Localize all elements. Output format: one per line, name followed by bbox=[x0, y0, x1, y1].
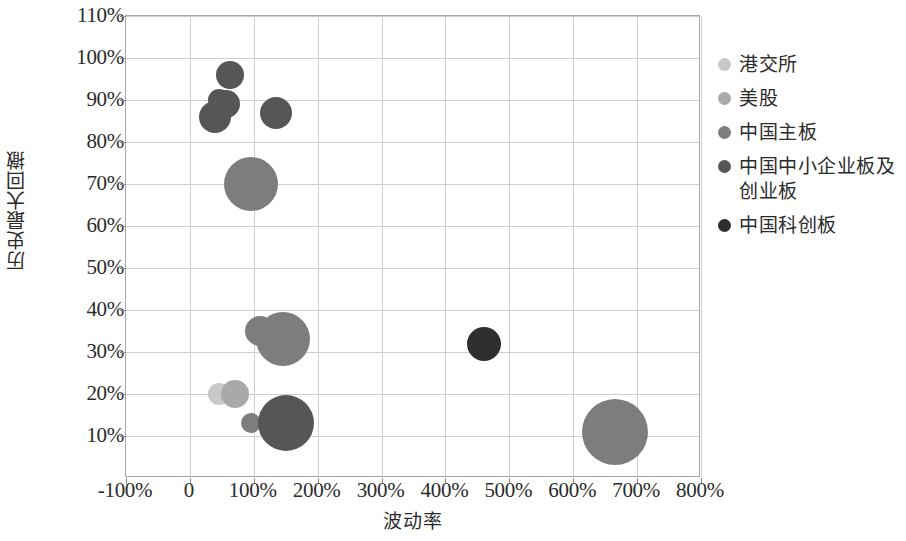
gridline-horizontal bbox=[126, 58, 699, 59]
y-tick-mark bbox=[120, 436, 126, 437]
y-tick-label: 40% bbox=[86, 299, 124, 320]
gridline-vertical bbox=[318, 16, 319, 476]
gridline-vertical bbox=[382, 16, 383, 476]
gridline-horizontal bbox=[126, 226, 699, 227]
gridline-vertical bbox=[701, 16, 702, 476]
bubble-point bbox=[216, 61, 244, 89]
gridline-horizontal bbox=[126, 16, 699, 17]
legend-marker-icon bbox=[718, 126, 731, 139]
bubble-point bbox=[260, 97, 292, 129]
gridline-vertical bbox=[509, 16, 510, 476]
bubble-point bbox=[467, 327, 501, 361]
y-tick-label: 50% bbox=[86, 257, 124, 278]
y-tick-mark bbox=[120, 268, 126, 269]
y-tick-mark bbox=[120, 184, 126, 185]
gridline-horizontal bbox=[126, 142, 699, 143]
gridline-horizontal bbox=[126, 352, 699, 353]
y-tick-label: 110% bbox=[77, 5, 124, 26]
bubble-point bbox=[221, 380, 249, 408]
legend-item-label: 美股 bbox=[739, 86, 778, 111]
y-axis-title: 历史最大回撤 bbox=[6, 150, 38, 270]
y-tick-label: 100% bbox=[76, 47, 124, 68]
y-tick-mark bbox=[120, 58, 126, 59]
legend-item[interactable]: 中国科创板 bbox=[718, 213, 903, 238]
legend-item[interactable]: 中国中小企业板及 创业板 bbox=[718, 154, 903, 204]
legend-marker-icon bbox=[718, 58, 731, 71]
gridline-horizontal bbox=[126, 184, 699, 185]
y-tick-label: 30% bbox=[86, 341, 124, 362]
gridline-vertical bbox=[573, 16, 574, 476]
y-tick-mark bbox=[120, 226, 126, 227]
gridline-vertical bbox=[190, 16, 191, 476]
legend-item[interactable]: 港交所 bbox=[718, 52, 903, 77]
bubble-point bbox=[258, 395, 314, 451]
y-tick-mark bbox=[120, 16, 126, 17]
y-tick-label: 80% bbox=[86, 131, 124, 152]
gridline-horizontal bbox=[126, 268, 699, 269]
bubble-chart: 历史最大回撤 10%20%30%40%50%60%70%80%90%100%11… bbox=[0, 0, 906, 541]
legend-item-label: 中国中小企业板及 创业板 bbox=[739, 154, 895, 204]
y-tick-label: 60% bbox=[86, 215, 124, 236]
gridline-horizontal bbox=[126, 310, 699, 311]
legend-marker-icon bbox=[718, 92, 731, 105]
legend-item-label: 中国主板 bbox=[739, 120, 817, 145]
legend: 港交所美股中国主板中国中小企业板及 创业板中国科创板 bbox=[718, 52, 903, 247]
y-tick-label: 90% bbox=[86, 89, 124, 110]
legend-item[interactable]: 中国主板 bbox=[718, 120, 903, 145]
bubble-point bbox=[224, 157, 278, 211]
y-tick-mark bbox=[120, 310, 126, 311]
legend-item[interactable]: 美股 bbox=[718, 86, 903, 111]
gridline-vertical bbox=[445, 16, 446, 476]
gridline-vertical bbox=[254, 16, 255, 476]
y-tick-mark bbox=[120, 352, 126, 353]
bubble-point bbox=[582, 399, 648, 465]
legend-marker-icon bbox=[718, 160, 731, 173]
x-tick-label: 800% bbox=[650, 480, 750, 501]
y-tick-mark bbox=[120, 394, 126, 395]
x-axis-title: 波动率 bbox=[125, 506, 700, 533]
y-tick-label: 70% bbox=[86, 173, 124, 194]
bubble-point bbox=[212, 90, 240, 118]
y-tick-label: 20% bbox=[86, 383, 124, 404]
plot-area bbox=[125, 15, 700, 477]
y-tick-mark bbox=[120, 142, 126, 143]
legend-item-label: 中国科创板 bbox=[739, 213, 837, 238]
legend-item-label: 港交所 bbox=[739, 52, 798, 77]
y-tick-label: 10% bbox=[86, 425, 124, 446]
legend-marker-icon bbox=[718, 219, 731, 232]
y-tick-mark bbox=[120, 100, 126, 101]
bubble-point bbox=[256, 312, 310, 366]
